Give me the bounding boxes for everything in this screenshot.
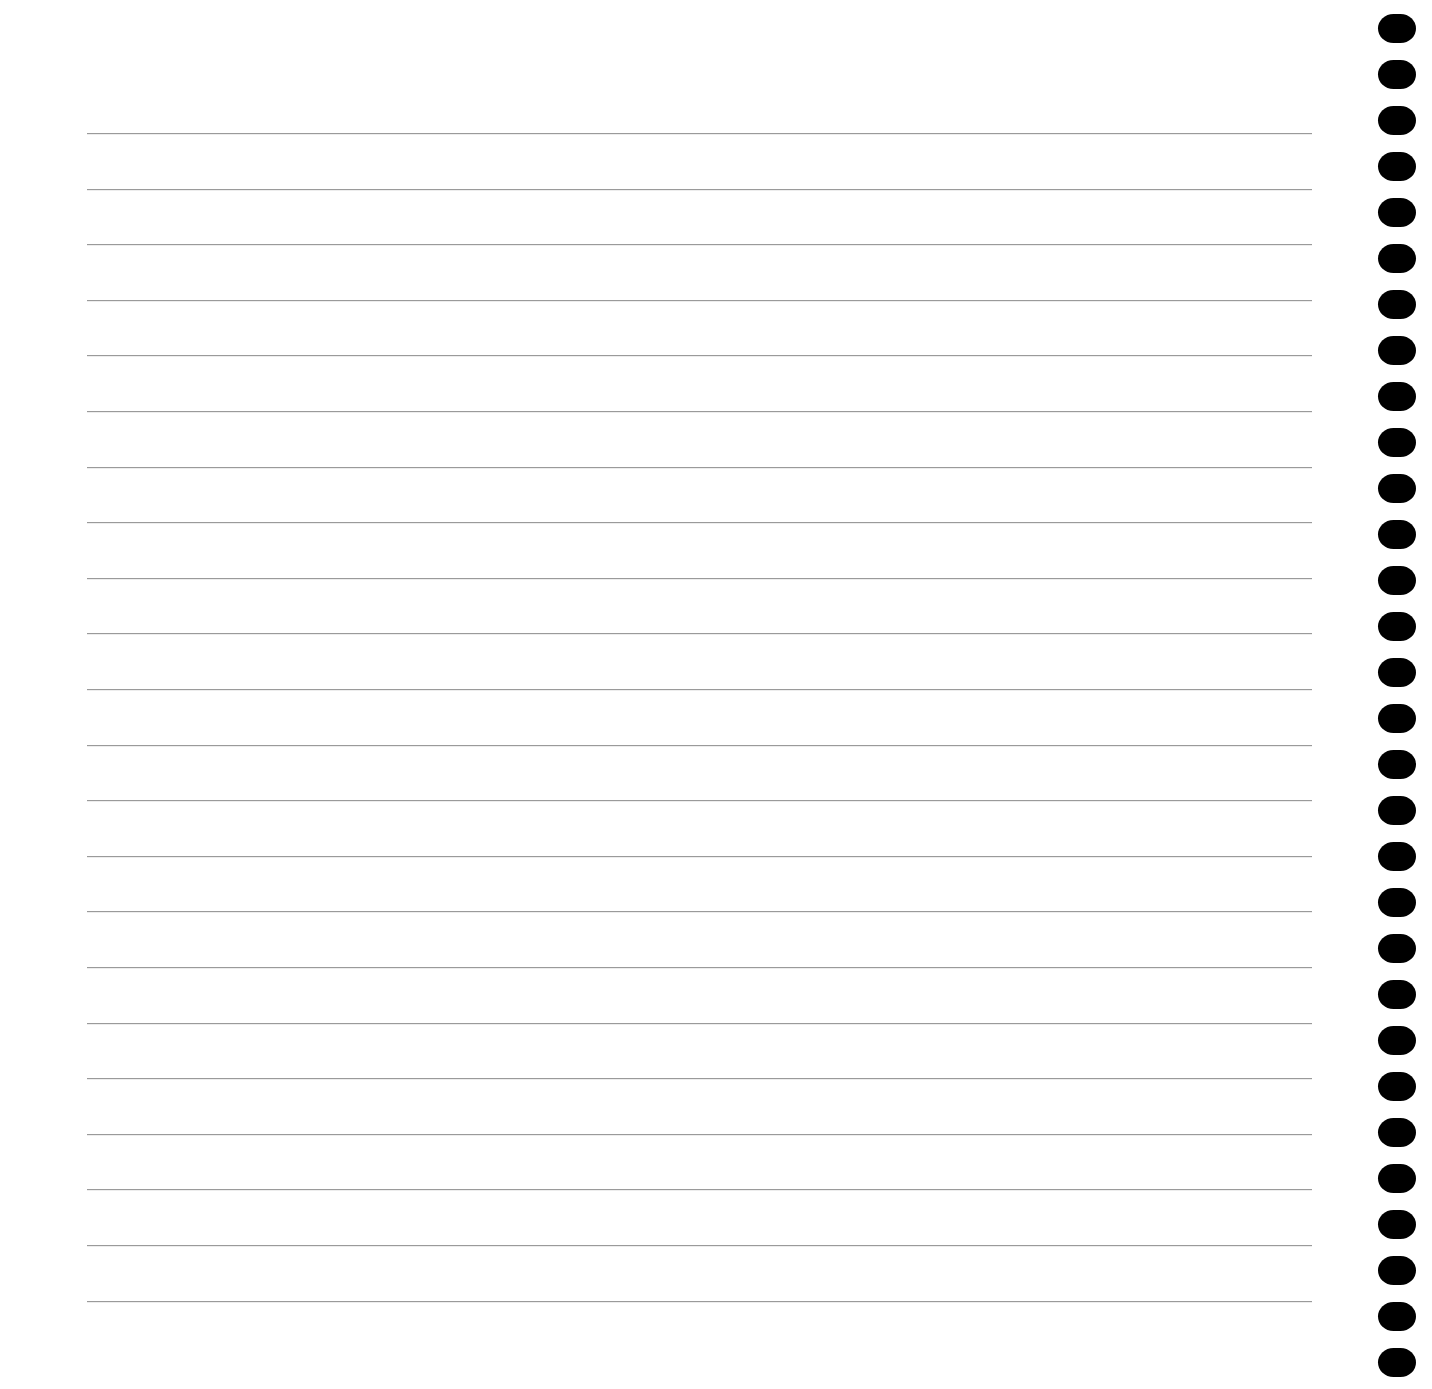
binding-hole: [1378, 244, 1416, 273]
binding-hole: [1378, 888, 1416, 917]
binding-hole: [1378, 336, 1416, 365]
ruled-line: [87, 856, 1312, 857]
binding-hole: [1378, 980, 1416, 1009]
binding-hole: [1378, 520, 1416, 549]
ruled-line: [87, 189, 1312, 190]
ruled-line: [87, 1245, 1312, 1246]
ruled-line: [87, 355, 1312, 356]
binding-hole: [1378, 14, 1416, 43]
binding-hole: [1378, 750, 1416, 779]
binding-hole: [1378, 1348, 1416, 1377]
binding-hole: [1378, 290, 1416, 319]
binding-hole: [1378, 106, 1416, 135]
ruled-line: [87, 1189, 1312, 1190]
binding-hole: [1378, 60, 1416, 89]
binding-hole: [1378, 152, 1416, 181]
binding-hole: [1378, 1118, 1416, 1147]
ruled-line: [87, 911, 1312, 912]
binding-hole: [1378, 612, 1416, 641]
binding-hole: [1378, 1026, 1416, 1055]
ruled-line: [87, 967, 1312, 968]
ruled-line: [87, 689, 1312, 690]
binding-hole: [1378, 842, 1416, 871]
binding-hole: [1378, 658, 1416, 687]
notebook-page: [0, 0, 1432, 1389]
ruled-line: [87, 300, 1312, 301]
ruled-line: [87, 522, 1312, 523]
binding-hole: [1378, 934, 1416, 963]
ruled-line: [87, 1023, 1312, 1024]
binding-hole: [1378, 1072, 1416, 1101]
ruled-line: [87, 1301, 1312, 1302]
ruled-line: [87, 800, 1312, 801]
ruled-line: [87, 1078, 1312, 1079]
ruled-line: [87, 578, 1312, 579]
binding-hole: [1378, 198, 1416, 227]
binding-hole: [1378, 796, 1416, 825]
ruled-line: [87, 133, 1312, 134]
ruled-line: [87, 1134, 1312, 1135]
ruled-line: [87, 745, 1312, 746]
ruled-line: [87, 411, 1312, 412]
ruled-line: [87, 244, 1312, 245]
ruled-line: [87, 467, 1312, 468]
binding-hole: [1378, 1302, 1416, 1331]
binding-hole: [1378, 1210, 1416, 1239]
ruled-line: [87, 633, 1312, 634]
binding-hole: [1378, 474, 1416, 503]
binding-hole: [1378, 704, 1416, 733]
binding-hole: [1378, 428, 1416, 457]
binding-hole: [1378, 1256, 1416, 1285]
binding-hole: [1378, 566, 1416, 595]
binding-hole: [1378, 1164, 1416, 1193]
binding-hole: [1378, 382, 1416, 411]
